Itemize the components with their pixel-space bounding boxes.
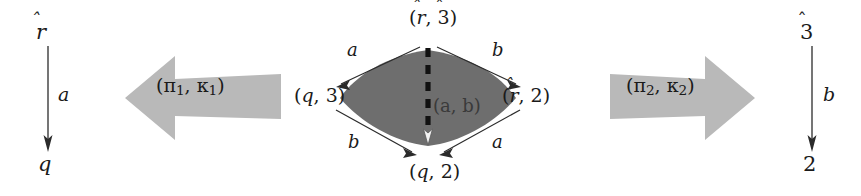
comma: , [429,160,441,182]
pi-symbol: (π [626,74,646,96]
kappa-subscript: 2 [679,82,688,98]
right-axis-bottom-label: 2 [803,152,816,176]
projection-arrow-left-shape [125,56,281,140]
comma: , [426,6,438,28]
kappa-symbol: , κ [185,74,209,96]
paren-close: ) [450,6,457,28]
pi-subscript: 2 [646,82,655,98]
kappa-subscript: 1 [209,82,218,98]
vertex-left-first: q [301,84,313,106]
left-axis-top-symbol: r [36,20,46,44]
projection-arrow-right-shape [610,56,755,140]
edge-bottom-right-label: a [492,131,503,152]
paren-open: ( [502,84,509,106]
vertex-right-first: r [509,84,518,106]
vertex-left-second: 3 [326,84,338,106]
edge-center-dashed-label: (a, b) [433,95,481,116]
vertex-top-first: r [416,6,425,28]
vertex-left-label: (q, 3) [294,84,345,106]
edge-bottom-left-label: b [348,131,360,152]
paren-close: ) [687,74,694,96]
paren-close: ) [543,84,550,106]
edge-top-left-label: a [347,39,358,60]
vertex-top-label: (̂r, ̂3) [409,6,457,28]
right-axis-top-symbol: 3 [800,20,813,44]
right-axis-arrow [808,46,817,152]
lens-shape [340,50,516,146]
left-axis-arrow [44,46,53,152]
left-axis-bottom-label: q [38,152,51,176]
comma: , [519,84,531,106]
vertex-bottom-first: q [416,160,428,182]
right-axis-top-label: ̂3 [800,20,813,44]
figure-canvas: ̂r a q ̂3 b 2 (π1, κ1) (π2, κ2) (̂r, ̂3)… [0,0,861,196]
paren-open: ( [409,6,416,28]
right-axis-edge-label: b [823,83,835,105]
projection-arrow-left-label: (π1, κ1) [156,74,225,98]
vertex-bottom-label: (q, 2) [409,160,460,182]
projection-arrow-right-label: (π2, κ2) [626,74,695,98]
vertex-top-second: 3 [438,6,450,28]
left-axis-top-label: ̂r [36,20,46,44]
paren-close: ) [217,74,224,96]
comma: , [314,84,326,106]
pi-subscript: 1 [176,82,185,98]
left-axis-edge-label: a [58,83,69,105]
pi-symbol: (π [156,74,176,96]
kappa-symbol: , κ [655,74,679,96]
vertex-right-label: (̂r, 2) [502,84,550,106]
edge-top-right-label: b [492,39,504,60]
vertex-bottom-second: 2 [441,160,453,182]
vertex-right-second: 2 [531,84,543,106]
paren-close: ) [338,84,345,106]
paren-close: ) [453,160,460,182]
